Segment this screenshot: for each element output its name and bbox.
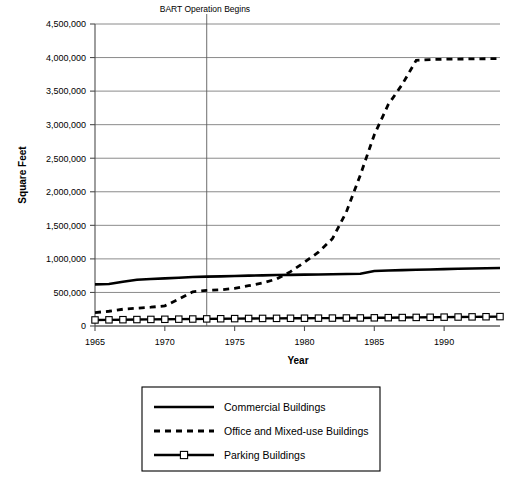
series-marker-square [329,315,335,321]
series-marker-square [455,314,461,320]
x-tick-label: 1970 [155,337,175,347]
series-marker-square [343,315,349,321]
x-tick-label: 1985 [364,337,384,347]
series-marker-square [399,314,405,320]
y-tick-label: 500,000 [53,288,86,298]
series-marker-square [190,316,196,322]
x-tick-label: 1975 [225,337,245,347]
series-marker-square [371,315,377,321]
y-tick-label: 2,500,000 [46,154,86,164]
y-tick-label: 1,000,000 [46,254,86,264]
series-marker-square [106,317,112,323]
y-tick-label: 3,500,000 [46,86,86,96]
series-marker-square [385,314,391,320]
series-marker-square [441,314,447,320]
series-marker-square [469,314,475,320]
legend-item-label: Commercial Buildings [224,401,326,413]
series-marker-square [497,313,503,319]
series-marker-square [357,315,363,321]
y-tick-label: 2,000,000 [46,187,86,197]
legend-swatch-marker [180,451,187,458]
x-tick-label: 1965 [85,337,105,347]
chart-figure: 0500,0001,000,0001,500,0002,000,0002,500… [0,0,512,488]
series-marker-square [301,315,307,321]
chart-svg: 0500,0001,000,0001,500,0002,000,0002,500… [0,0,512,488]
legend-item-label: Office and Mixed-use Buildings [224,425,369,437]
series-marker-square [148,316,154,322]
y-tick-label: 4,500,000 [46,19,86,29]
series-marker-square [176,316,182,322]
x-tick-label: 1980 [294,337,314,347]
series-marker-square [427,314,433,320]
series-marker-square [483,314,489,320]
series-marker-square [120,316,126,322]
series-marker-square [273,315,279,321]
series-marker-square [259,315,265,321]
series-marker-square [315,315,321,321]
series-marker-square [231,315,237,321]
legend: Commercial BuildingsOffice and Mixed-use… [142,387,380,471]
legend-item-label: Parking Buildings [224,449,305,461]
series-marker-square [92,317,98,323]
series-marker-square [217,316,223,322]
series-marker-square [204,316,210,322]
series-marker-square [245,315,251,321]
y-tick-label: 3,000,000 [46,120,86,130]
y-axis-title: Square Feet [17,146,28,204]
series-marker-square [287,315,293,321]
y-tick-label: 4,000,000 [46,53,86,63]
series-marker-square [134,316,140,322]
series-marker-square [413,314,419,320]
x-tick-label: 1990 [434,337,454,347]
x-axis-title: Year [287,355,308,366]
y-tick-label: 1,500,000 [46,221,86,231]
annotation-label: BART Operation Begins [160,4,250,14]
y-tick-label: 0 [81,321,86,331]
series-marker-square [162,316,168,322]
